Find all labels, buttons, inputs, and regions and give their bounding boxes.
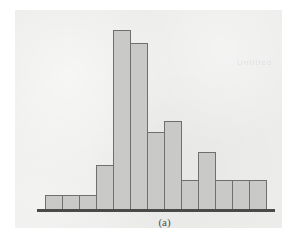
- figure-caption: (a): [15, 216, 282, 228]
- histogram-bar: [79, 195, 97, 210]
- histogram-bar: [130, 43, 148, 210]
- histogram-bar: [62, 195, 80, 210]
- histogram-bar: [147, 132, 165, 210]
- histogram-figure: Untitled (a): [0, 0, 299, 240]
- plot-panel: Untitled (a): [15, 10, 282, 228]
- histogram-bar: [181, 180, 199, 210]
- histogram-bar: [45, 195, 63, 210]
- histogram-bar: [198, 152, 216, 210]
- histogram-bar: [215, 180, 233, 210]
- histogram-bar: [113, 30, 131, 210]
- histogram-bar: [96, 165, 114, 210]
- histogram-bar: [232, 180, 250, 210]
- x-axis-baseline: [37, 209, 275, 212]
- histogram-bar: [164, 121, 182, 210]
- histogram-bar: [249, 180, 267, 210]
- histogram-bars: [45, 24, 266, 210]
